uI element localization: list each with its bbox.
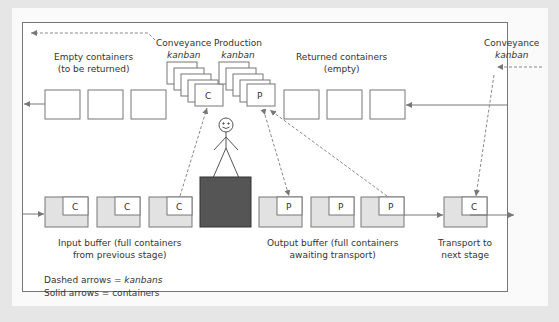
input-container-3: C: [149, 197, 192, 227]
empty-containers-label: Empty containers (to be returned): [54, 51, 133, 75]
output-buffer: P P P: [259, 197, 443, 227]
dashed-arrow-conveyance-return: [31, 33, 155, 40]
returned-container-3: [370, 90, 405, 119]
returned-containers-label: Returned containers (empty): [296, 51, 387, 75]
output-container-3: P: [361, 197, 404, 227]
empty-containers-row: [24, 90, 166, 119]
svg-text:C: C: [176, 202, 182, 212]
input-buffer-label: Input buffer (full containers from previ…: [58, 237, 181, 261]
empty-container-3: [131, 90, 166, 119]
legend-dashed: Dashed arrows = kanbans: [44, 274, 162, 287]
legend: Dashed arrows = kanbans Solid arrows = c…: [44, 274, 162, 300]
svg-text:C: C: [471, 202, 477, 212]
dashed-arrows-production: [265, 110, 387, 196]
workstation-block: [200, 177, 251, 227]
empty-container-2: [88, 90, 123, 119]
production-kanban-stack: P: [219, 62, 275, 106]
output-buffer-label: Output buffer (full containers awaiting …: [267, 237, 398, 261]
production-kanban-letter: P: [257, 91, 263, 101]
dashed-arrow-conveyance-right: [476, 67, 542, 196]
legend-solid: Solid arrows = containers: [44, 287, 162, 300]
svg-text:P: P: [388, 202, 394, 212]
conveyance-kanban-letter: C: [205, 91, 211, 101]
worker-stick-figure: [213, 118, 239, 178]
svg-text:P: P: [338, 202, 344, 212]
output-container-1: P: [259, 197, 302, 227]
conveyance-kanban-stack: C: [167, 62, 223, 106]
production-kanban-label: Production kanban: [214, 37, 262, 61]
svg-text:P: P: [286, 202, 292, 212]
returned-container-2: [327, 90, 362, 119]
input-container-2: C: [97, 197, 140, 227]
conveyance-kanban-label-right: Conveyance kanban: [484, 37, 539, 61]
transport-container: C: [444, 197, 514, 227]
worker-head-icon: [219, 118, 233, 132]
input-container-1: C: [45, 197, 88, 227]
returned-containers-row: [284, 90, 507, 119]
svg-text:C: C: [124, 202, 130, 212]
transport-label: Transport to next stage: [438, 237, 492, 261]
empty-container-1: [45, 90, 80, 119]
conveyance-kanban-label-top: Conveyance kanban: [156, 37, 211, 61]
returned-container-1: [284, 90, 319, 119]
input-buffer: C C C: [22, 197, 192, 227]
svg-text:C: C: [72, 202, 78, 212]
output-container-2: P: [311, 197, 354, 227]
